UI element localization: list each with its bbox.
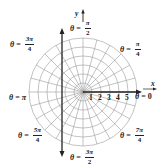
- angle-label-3pi-over-4: θ= 3π4: [10, 36, 34, 53]
- grid-radial-line: [83, 92, 110, 139]
- radial-tick-1: 1: [89, 93, 93, 102]
- grid-radial-line: [36, 65, 83, 92]
- radial-tick-4: 4: [116, 93, 120, 102]
- grid-radial-line: [83, 54, 121, 92]
- grid-radial-line: [56, 45, 83, 92]
- radial-tick-5: 5: [125, 93, 129, 102]
- y-axis-arrow-icon: [81, 9, 84, 14]
- radial-tick-3: 3: [107, 93, 111, 102]
- grid-radial-line: [45, 54, 83, 92]
- vertical-arrow-up-icon: [60, 28, 65, 34]
- angle-label-pi: θ=π: [9, 94, 26, 102]
- radial-tick-2: 2: [98, 93, 102, 102]
- angle-label-7pi-over-4: θ= 7π4: [120, 127, 144, 144]
- grid-radial-line: [56, 92, 83, 139]
- angle-label-3pi-over-2: θ= 3π2: [70, 149, 94, 166]
- y-axis-label: y: [75, 9, 78, 18]
- angle-label-5pi-over-4: θ= 5π4: [18, 127, 42, 144]
- angle-label-pi-over-4: θ= π4: [120, 41, 141, 58]
- grid-radial-line: [83, 45, 110, 92]
- x-axis-label: x: [151, 79, 155, 88]
- grid-radial-line: [83, 65, 130, 92]
- grid-radial-line: [45, 92, 83, 130]
- angle-label-pi-over-2: θ= π2: [70, 20, 91, 37]
- angle-label-0: θ=0: [135, 93, 152, 101]
- vertical-arrow-down-icon: [60, 151, 65, 157]
- grid-radial-line: [36, 92, 83, 119]
